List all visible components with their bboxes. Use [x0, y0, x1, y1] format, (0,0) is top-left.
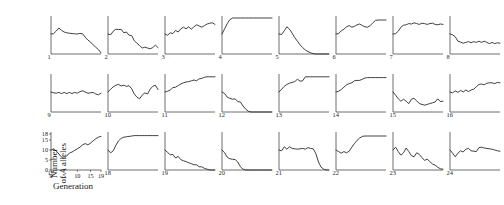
replicate-panel-12: 12 — [216, 72, 273, 120]
panel-number-5: 5 — [276, 54, 279, 61]
allele-trajectory-line — [450, 34, 500, 44]
allele-trajectory-line — [222, 18, 272, 34]
replicate-panel-10: 10 — [102, 72, 159, 120]
panel-number-14: 14 — [333, 112, 340, 119]
replicate-panel-24: 24 — [444, 130, 501, 178]
y-tick-label-5: 5 — [36, 157, 48, 163]
panel-number-11: 11 — [162, 112, 168, 119]
replicate-panel-23: 23 — [387, 130, 444, 178]
replicate-panel-2: 2 — [102, 14, 159, 62]
replicate-plot-6 — [330, 14, 387, 62]
allele-trajectory-line — [279, 147, 329, 170]
allele-trajectory-line — [51, 91, 101, 95]
panel-number-20: 20 — [219, 170, 226, 177]
replicate-panel-18: 18 — [102, 130, 159, 178]
panel-number-6: 6 — [333, 54, 336, 61]
replicate-panel-5: 5 — [273, 14, 330, 62]
panel-number-9: 9 — [48, 112, 51, 119]
panel-number-13: 13 — [276, 112, 283, 119]
allele-trajectory-line — [108, 84, 158, 98]
replicate-plot-7 — [387, 14, 444, 62]
panel-number-4: 4 — [219, 54, 222, 61]
allele-trajectory-line — [165, 23, 215, 35]
replicate-panel-16: 16 — [444, 72, 501, 120]
x-tick-label-0: 0 — [45, 173, 57, 179]
allele-trajectory-line — [51, 28, 101, 53]
allele-trajectory-line — [336, 136, 386, 153]
replicate-plot-2 — [102, 14, 159, 62]
panel-number-3: 3 — [162, 54, 165, 61]
panel-number-7: 7 — [390, 54, 393, 61]
panel-number-16: 16 — [447, 112, 454, 119]
replicate-plot-5 — [273, 14, 330, 62]
replicate-panel-9: 9 — [45, 72, 102, 120]
allele-frequency-small-multiples-figure: 1234567891011121314151617Numberof A alle… — [0, 0, 504, 205]
x-axis-title: Generation — [53, 182, 93, 191]
panel-number-24: 24 — [447, 170, 454, 177]
allele-trajectory-line — [108, 29, 158, 49]
allele-trajectory-line — [165, 150, 215, 170]
replicate-panel-15: 15 — [387, 72, 444, 120]
panel-number-22: 22 — [333, 170, 340, 177]
panel-number-19: 19 — [162, 170, 169, 177]
replicate-panel-6: 6 — [330, 14, 387, 62]
replicate-plot-1 — [45, 14, 102, 62]
replicate-plot-3 — [159, 14, 216, 62]
y-tick-label-10: 10 — [36, 147, 48, 153]
allele-trajectory-line — [450, 147, 500, 157]
x-tick-label-10: 10 — [71, 173, 83, 179]
replicate-panel-13: 13 — [273, 72, 330, 120]
allele-trajectory-line — [393, 23, 443, 34]
panel-number-1: 1 — [48, 54, 51, 61]
replicate-plot-8 — [444, 14, 501, 62]
allele-trajectory-line — [450, 82, 500, 92]
replicate-plot-4 — [216, 14, 273, 62]
allele-trajectory-line — [279, 27, 329, 54]
replicate-plot-9 — [45, 72, 102, 120]
replicate-panel-19: 19 — [159, 130, 216, 178]
replicate-panel-4: 4 — [216, 14, 273, 62]
replicate-panel-1: 1 — [45, 14, 102, 62]
x-tick-label-5: 5 — [58, 173, 70, 179]
y-tick-label-15: 15 — [36, 137, 48, 143]
allele-trajectory-line — [222, 150, 272, 170]
panel-number-12: 12 — [219, 112, 226, 119]
replicate-panel-8: 8 — [444, 14, 501, 62]
replicate-panel-21: 21 — [273, 130, 330, 178]
panel-number-2: 2 — [105, 54, 108, 61]
panel-number-10: 10 — [105, 112, 112, 119]
replicate-panel-14: 14 — [330, 72, 387, 120]
panel-number-21: 21 — [276, 170, 283, 177]
replicate-panel-22: 22 — [330, 130, 387, 178]
panel-number-18: 18 — [105, 170, 112, 177]
allele-trajectory-line — [279, 77, 329, 92]
panel-number-8: 8 — [447, 54, 450, 61]
allele-trajectory-line — [393, 92, 443, 105]
allele-trajectory-line — [393, 147, 443, 169]
allele-trajectory-line — [222, 92, 272, 112]
allele-trajectory-line — [336, 78, 386, 92]
panel-number-15: 15 — [390, 112, 397, 119]
replicate-panel-20: 20 — [216, 130, 273, 178]
y-tick-label-18: 18 — [36, 131, 48, 137]
replicate-panel-3: 3 — [159, 14, 216, 62]
replicate-panel-7: 7 — [387, 14, 444, 62]
allele-trajectory-line — [336, 20, 386, 34]
replicate-panel-11: 11 — [159, 72, 216, 120]
panel-number-23: 23 — [390, 170, 397, 177]
allele-trajectory-line — [108, 136, 158, 153]
replicate-panel-17: 17Numberof A alleles0510151805101519Gene… — [45, 130, 102, 178]
allele-trajectory-line — [165, 77, 215, 92]
